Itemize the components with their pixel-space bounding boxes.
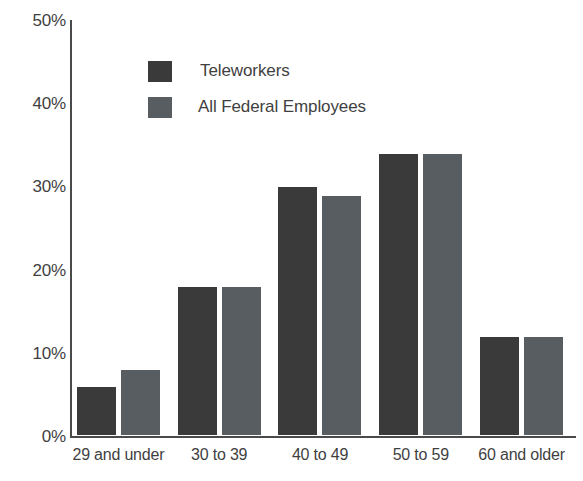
bar [221,286,262,436]
legend-swatch-teleworkers [148,61,172,82]
bar [321,195,362,436]
legend-label: All Federal Employees [198,97,366,117]
legend-item-teleworkers: Teleworkers [148,56,366,86]
x-axis-line [70,436,576,438]
bar [120,369,161,436]
bar [422,153,463,436]
y-axis-tick-labels: 50%40%30%20%10%0% [0,0,66,481]
bar [177,286,218,436]
bar [479,336,520,436]
legend-swatch-all-federal-employees [148,97,172,118]
bar-group [374,20,475,436]
bar [277,186,318,436]
y-axis-tick-20: 20% [4,262,66,279]
bar [378,153,419,436]
x-axis-label-60-and-older: 60 and older [452,446,583,464]
y-axis-tick-0: 0% [4,428,66,445]
bar-chart: 50%40%30%20%10%0% 29 and under30 to 3940… [0,0,583,481]
y-axis-tick-30: 30% [4,178,66,195]
legend-label: Teleworkers [200,61,290,81]
bar [76,386,117,436]
y-axis-tick-40: 40% [4,95,66,112]
y-axis-tick-10: 10% [4,345,66,362]
y-axis-tick-50: 50% [4,12,66,29]
chart-legend: TeleworkersAll Federal Employees [148,56,366,122]
bar [523,336,564,436]
bar-group [475,20,576,436]
legend-item-all-federal-employees: All Federal Employees [148,92,366,122]
